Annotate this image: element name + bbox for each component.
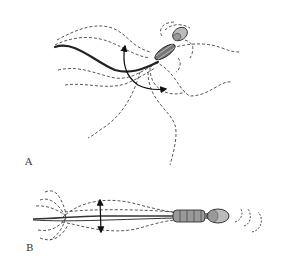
panel-label-a: A <box>25 157 32 167</box>
panel-b-drawing <box>33 191 261 240</box>
sperm-flagellum-diagram: A B <box>0 0 284 264</box>
panel-a-drawing <box>55 22 240 165</box>
panel-label-b: B <box>26 243 33 253</box>
